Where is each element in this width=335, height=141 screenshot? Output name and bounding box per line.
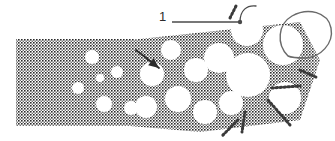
callout-label-1: 1 xyxy=(159,10,166,23)
callout-leader xyxy=(172,6,256,24)
figure-canvas: 1 xyxy=(0,0,335,141)
figure-svg xyxy=(0,0,335,141)
edge-fade xyxy=(250,0,335,141)
